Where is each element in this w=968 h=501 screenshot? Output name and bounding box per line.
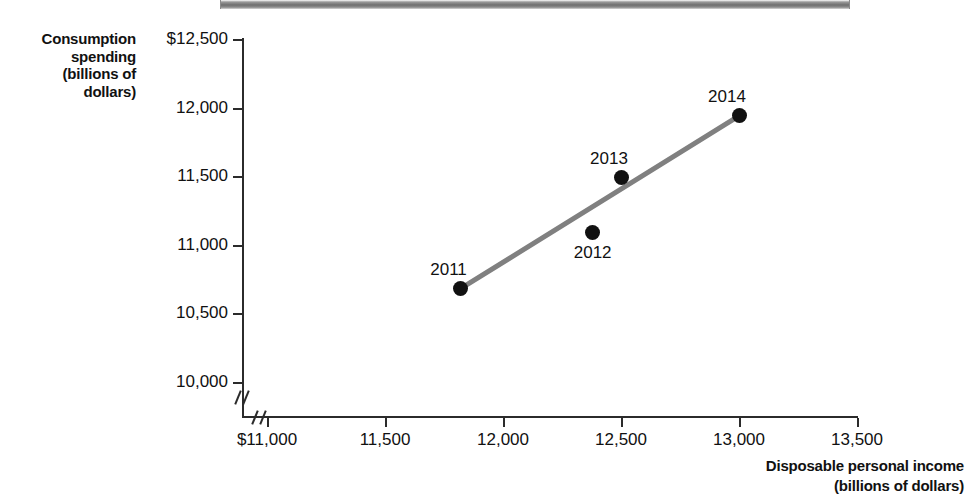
data-point-2013: [614, 170, 629, 185]
y-tick-label-11000: 11,000: [112, 236, 228, 253]
y-tick-10500: [233, 313, 242, 315]
x-tick-12500: [621, 418, 623, 427]
x-axis-title-line-2: (billions of dollars): [544, 476, 964, 496]
y-tick-12500: [233, 39, 242, 41]
y-tick-label-10500: 10,500: [112, 304, 228, 321]
y-tick-label-10000: 10,000: [112, 373, 228, 390]
y-tick-11000: [233, 245, 242, 247]
x-tick-label-13500: 13,500: [831, 431, 883, 448]
data-point-label-2012: 2012: [574, 244, 612, 261]
x-tick-11500: [385, 418, 387, 427]
y-tick-11500: [233, 176, 242, 178]
y-axis-title-line-2: spending: [0, 48, 136, 66]
x-tick-13500: [857, 418, 859, 427]
y-axis-title-line-4: dollars): [0, 83, 136, 101]
y-tick-12000: [233, 108, 242, 110]
y-axis-title-line-3: (billions of: [0, 65, 136, 83]
x-tick-12000: [503, 418, 505, 427]
plot-area: $12,50012,00011,50011,00010,50010,000 $1…: [242, 38, 858, 418]
data-point-label-2011: 2011: [430, 261, 467, 278]
x-tick-13000: [739, 418, 741, 427]
x-axis-title-line-1: Disposable personal income: [544, 456, 964, 476]
x-tick-label-12000: 12,000: [477, 431, 529, 448]
x-tick-label-13000: 13,000: [713, 431, 765, 448]
y-axis-break-mark: [234, 390, 241, 405]
x-tick-label-12500: 12,500: [595, 431, 647, 448]
data-point-label-2014: 2014: [708, 88, 746, 105]
y-tick-label-12000: 12,000: [112, 99, 228, 116]
y-tick-label-11500: 11,500: [112, 167, 228, 184]
x-tick-label-11000: $11,000: [237, 431, 297, 448]
trend-line: [242, 38, 858, 418]
x-tick-label-11500: 11,500: [360, 431, 411, 448]
y-tick-10000: [233, 382, 242, 384]
cropped-title-bar: [220, 0, 850, 9]
x-axis-title: Disposable personal income(billions of d…: [544, 456, 964, 496]
data-point-label-2013: 2013: [590, 150, 628, 167]
x-tick-11000: [267, 418, 269, 427]
data-point-2014: [732, 108, 747, 123]
chart-figure: Consumptionspending(billions ofdollars) …: [0, 0, 968, 501]
y-tick-label-12500: $12,500: [112, 30, 228, 47]
